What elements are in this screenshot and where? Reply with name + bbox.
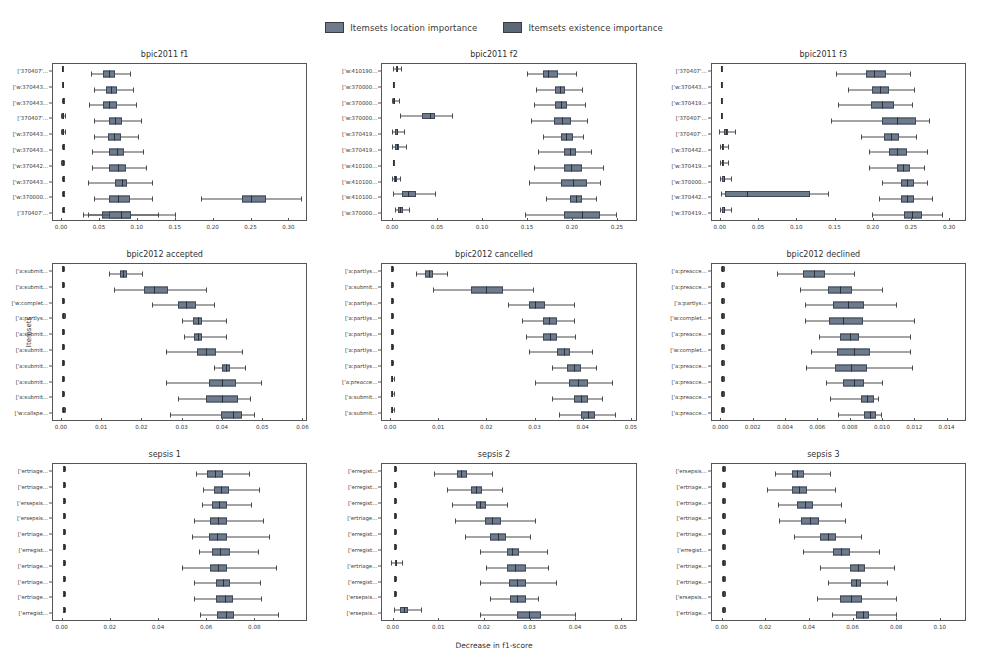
x-tick-label: 0.03 [175, 424, 187, 430]
x-tick-label: 0.10 [476, 224, 488, 230]
y-tick-label: ['ertriage... [347, 515, 377, 521]
y-tick-label: ['w:370419... [342, 147, 377, 153]
y-tick-label: ['w:370000... [342, 210, 377, 216]
x-tick-label: 0.30 [943, 224, 955, 230]
y-tick-label: ['a:submit... [16, 394, 48, 400]
x-tick-mark [785, 418, 786, 421]
y-tick-label: ['ersepsis... [17, 500, 48, 506]
x-tick-mark [809, 618, 810, 621]
legend-entry-location: Itemsets location importance [325, 22, 477, 33]
x-tick-mark [437, 218, 438, 221]
subplot-title: bpic2011 f1 [0, 50, 329, 59]
x-tick-mark [254, 618, 255, 621]
legend-label-location: Itemsets location importance [350, 23, 477, 33]
plot-area [381, 463, 636, 621]
x-tick-mark [222, 418, 223, 421]
y-tick-label: ['w:370443... [13, 179, 48, 185]
legend-swatch-existence-icon [503, 22, 522, 33]
x-tick-labels: 0.000.020.040.060.08 [52, 622, 307, 636]
y-tick-label: ['a:partlys... [345, 347, 377, 353]
x-tick-mark [302, 418, 303, 421]
x-tick-label: 0.010 [874, 424, 890, 430]
x-tick-mark [158, 618, 159, 621]
x-tick-mark [213, 218, 214, 221]
plot-inner [382, 64, 635, 220]
x-tick-mark [949, 218, 950, 221]
y-tick-label: ['a:partlys... [345, 331, 377, 337]
y-tick-label: ['a:preacce... [671, 284, 706, 290]
x-tick-label: 0.00 [55, 424, 67, 430]
y-tick-label: ['a:submit... [345, 410, 377, 416]
y-tick-label: ['370407'... [17, 68, 48, 74]
y-tick-label: ['w:370443... [13, 147, 48, 153]
y-tick-labels: ['370407'...['w:370443...['w:370443...['… [0, 63, 52, 221]
y-tick-label: ['a:submit... [16, 379, 48, 385]
x-tick-label: 0.15 [828, 224, 840, 230]
y-tick-labels: ['370407'...['w:370443...['w:370419...['… [659, 63, 711, 221]
x-tick-label: 0.012 [906, 424, 922, 430]
x-tick-mark [61, 218, 62, 221]
x-tick-label: 0.02 [480, 424, 492, 430]
x-tick-mark [896, 618, 897, 621]
subplot-bpic2012-declined: bpic2012 declined['a:preacce...['a:preac… [659, 246, 988, 446]
y-tick-label: ['w:410190... [342, 68, 377, 74]
x-tick-labels: 0.000.050.100.150.200.250.30 [711, 222, 966, 236]
subplot-sepsis-1: sepsis 1['ertriage...['ertriage...['erse… [0, 446, 329, 646]
x-tick-mark [61, 418, 62, 421]
plot-area [381, 63, 636, 221]
x-tick-mark [393, 618, 394, 621]
subplot-title: sepsis 2 [329, 450, 658, 459]
x-tick-mark [392, 218, 393, 221]
plot-area [381, 263, 636, 421]
x-tick-label: 0.04 [576, 424, 588, 430]
x-tick-mark [62, 618, 63, 621]
y-tick-label: ['a:preacce... [671, 379, 706, 385]
x-tick-label: 0.04 [152, 624, 164, 630]
subplot-sepsis-3: sepsis 3['ersepsis...['ertriage...['ertr… [659, 446, 988, 646]
y-tick-label: ['a:submit... [16, 268, 48, 274]
x-tick-label: 0.01 [95, 424, 107, 430]
y-tick-label: ['ertriage... [677, 579, 707, 585]
y-tick-label: ['a:preacce... [671, 331, 706, 337]
x-tick-label: 0.00 [384, 424, 396, 430]
x-tick-mark [575, 618, 576, 621]
subplot-title: bpic2011 f2 [329, 50, 658, 59]
y-tick-label: ['ersepsis... [17, 515, 48, 521]
y-tick-label: ['a:preacce... [671, 268, 706, 274]
x-tick-label: 0.10 [790, 224, 802, 230]
x-tick-label: 0.01 [432, 624, 444, 630]
y-tick-label: ['ertriage... [677, 484, 707, 490]
y-tick-label: ['erregist... [677, 547, 706, 553]
y-tick-labels: ['erregist...['erregist...['erregist...[… [329, 463, 381, 621]
x-tick-mark [438, 618, 439, 621]
legend-swatch-location-icon [325, 22, 344, 33]
y-tick-label: ['a:submit... [16, 347, 48, 353]
x-tick-label: 0.04 [569, 624, 581, 630]
y-tick-label: ['a:submit... [16, 284, 48, 290]
y-tick-label: ['w:complet... [11, 300, 48, 306]
y-tick-label: ['w:370443... [13, 131, 48, 137]
subplot-bpic2011-f2: bpic2011 f2['w:410190...['w:370000...['w… [329, 46, 658, 246]
x-tick-labels: 0.000.010.020.030.040.05 [381, 622, 636, 636]
y-tick-label: ['w:370419... [671, 210, 706, 216]
subplot-bpic2012-cancelled: bpic2012 cancelled['a:partlys...['a:subm… [329, 246, 658, 446]
x-tick-label: 0.04 [803, 624, 815, 630]
legend-label-existence: Itemsets existence importance [528, 23, 662, 33]
plot-inner [712, 64, 965, 220]
y-tick-label: ['erregist... [348, 547, 377, 553]
x-tick-label: 0.06 [846, 624, 858, 630]
plot-area [52, 63, 307, 221]
x-tick-label: 0.03 [528, 424, 540, 430]
y-tick-label: ['erregist... [348, 468, 377, 474]
x-tick-mark [175, 218, 176, 221]
x-tick-label: 0.20 [206, 224, 218, 230]
x-tick-label: 0.10 [934, 624, 946, 630]
x-tick-mark [796, 218, 797, 221]
y-tick-label: ['ertriage... [18, 563, 48, 569]
y-tick-label: ['w:370419... [671, 100, 706, 106]
y-tick-labels: ['ersepsis...['ertriage...['ertriage...[… [659, 463, 711, 621]
x-tick-label: 0.006 [809, 424, 825, 430]
x-tick-label: 0.15 [169, 224, 181, 230]
x-tick-label: 0.05 [431, 224, 443, 230]
x-tick-mark [947, 418, 948, 421]
